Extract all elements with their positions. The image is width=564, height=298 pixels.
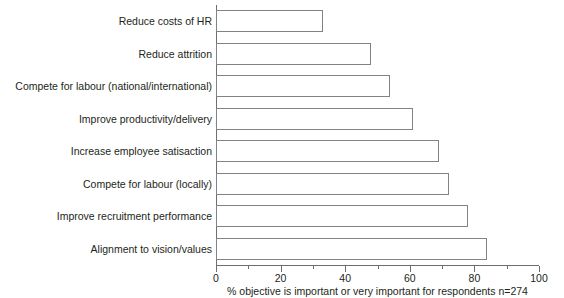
category-label: Reduce costs of HR <box>0 15 212 27</box>
bar[interactable] <box>216 108 413 130</box>
bar-slot <box>216 43 539 65</box>
bar[interactable] <box>216 238 487 260</box>
bar-slot <box>216 238 539 260</box>
x-tick-label: 80 <box>469 273 481 284</box>
category-label: Compete for labour (locally) <box>0 178 212 190</box>
bar-chart: Reduce costs of HRReduce attritionCompet… <box>0 0 564 298</box>
x-tick-label: 60 <box>404 273 416 284</box>
bar-slot <box>216 75 539 97</box>
category-label: Improve recruitment performance <box>0 210 212 222</box>
x-tick-minor <box>313 266 314 269</box>
bar-slot <box>216 108 539 130</box>
bar-slot <box>216 205 539 227</box>
category-label: Compete for labour (national/internation… <box>0 80 212 92</box>
x-tick-minor <box>442 266 443 269</box>
bar-slot <box>216 10 539 32</box>
category-label: Reduce attrition <box>0 48 212 60</box>
bar[interactable] <box>216 10 323 32</box>
x-tick-minor <box>507 266 508 269</box>
bars-container <box>216 5 539 265</box>
bar-slot <box>216 173 539 195</box>
bar[interactable] <box>216 173 449 195</box>
bar[interactable] <box>216 205 468 227</box>
bar[interactable] <box>216 75 390 97</box>
category-label: Alignment to vision/values <box>0 243 212 255</box>
x-tick-label: 20 <box>275 273 287 284</box>
bar-slot <box>216 140 539 162</box>
category-label: Improve productivity/delivery <box>0 113 212 125</box>
x-axis-title: % objective is important or very importa… <box>216 285 539 297</box>
x-tick-label: 40 <box>339 273 351 284</box>
x-tick-minor <box>248 266 249 269</box>
bar[interactable] <box>216 140 439 162</box>
x-tick-minor <box>378 266 379 269</box>
x-tick-label: 100 <box>530 273 548 284</box>
category-label: Increase employee satisaction <box>0 145 212 157</box>
bar[interactable] <box>216 43 371 65</box>
x-tick-label: 0 <box>213 273 219 284</box>
